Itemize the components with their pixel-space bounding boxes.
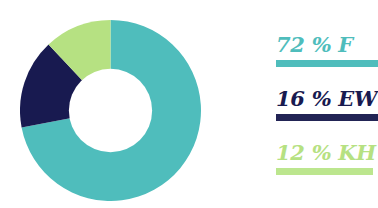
legend-item-kh-underline bbox=[276, 168, 373, 175]
legend-item-ew-underline bbox=[276, 114, 378, 121]
chart-legend: 72 % F 16 % EW 12 % KH bbox=[276, 32, 378, 187]
legend-item-kh-label: 12 % KH bbox=[276, 140, 378, 165]
chart-canvas: 72 % F 16 % EW 12 % KH bbox=[0, 0, 378, 208]
legend-item-f-underline bbox=[276, 60, 378, 67]
legend-item-ew-label: 16 % EW bbox=[276, 86, 378, 111]
donut-chart bbox=[20, 20, 201, 201]
legend-item-f[interactable]: 72 % F bbox=[276, 32, 378, 67]
legend-item-kh[interactable]: 12 % KH bbox=[276, 140, 378, 175]
donut-chart-svg bbox=[20, 20, 201, 201]
donut-center-hole bbox=[69, 69, 152, 152]
legend-item-f-label: 72 % F bbox=[276, 32, 378, 57]
legend-item-ew[interactable]: 16 % EW bbox=[276, 86, 378, 121]
